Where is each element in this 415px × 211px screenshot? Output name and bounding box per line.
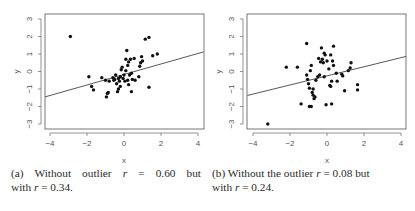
data-point: [331, 59, 334, 62]
caption-a: (a) Without outlier r = 0.60 but with r …: [11, 166, 201, 194]
data-point: [335, 72, 338, 75]
data-point: [156, 52, 159, 55]
x-tick-label: 4: [399, 139, 404, 148]
x-tick-label: 4: [196, 139, 201, 148]
data-point: [309, 69, 312, 72]
data-point: [322, 61, 325, 64]
data-point: [125, 49, 128, 52]
caption-b-line1: (b) Without the outlier r = 0.08 but: [212, 166, 412, 180]
data-point: [133, 79, 136, 82]
data-point: [140, 55, 143, 58]
data-point: [318, 73, 321, 76]
data-point: [130, 72, 133, 75]
x-axis: −4−2024x: [45, 133, 200, 165]
data-point: [126, 79, 129, 82]
x-axis: −4−2024x: [248, 133, 403, 165]
data-points: [69, 35, 159, 99]
data-point: [104, 79, 107, 82]
plot-frame: [247, 14, 406, 129]
x-axis-label: x: [122, 156, 126, 165]
data-point: [266, 122, 269, 125]
x-tick-label: 2: [362, 139, 367, 148]
data-point: [126, 64, 129, 67]
data-point: [349, 61, 352, 64]
data-point: [90, 85, 93, 88]
x-tick-label: 0: [122, 139, 127, 148]
data-point: [305, 73, 308, 76]
data-point: [341, 74, 344, 77]
x-tick-label: −4: [45, 139, 55, 148]
data-point: [114, 73, 117, 76]
y-tick-label: 0: [25, 69, 34, 74]
y-tick-label: 1: [227, 51, 236, 56]
data-point: [348, 66, 351, 69]
data-point: [310, 105, 313, 108]
y-tick-label: −1: [25, 84, 34, 94]
data-point: [124, 69, 127, 72]
data-point: [296, 65, 299, 68]
data-point: [285, 65, 288, 68]
data-point: [141, 59, 144, 62]
data-point: [307, 82, 310, 85]
data-point: [320, 46, 323, 49]
x-tick-label: 0: [325, 139, 330, 148]
y-tick-label: 3: [227, 16, 236, 21]
data-point: [87, 75, 90, 78]
data-point: [113, 78, 116, 81]
data-point: [122, 73, 125, 76]
data-point: [299, 102, 302, 105]
y-tick-label: −1: [227, 84, 236, 94]
y-tick-label: 1: [25, 51, 34, 56]
scatter-plot-b: −4−2024x−3−2−10123y: [207, 0, 415, 170]
data-point: [138, 65, 141, 68]
x-tick-label: −2: [285, 139, 295, 148]
data-point: [317, 57, 320, 60]
data-point: [329, 85, 332, 88]
data-point: [343, 89, 346, 92]
data-point: [356, 88, 359, 91]
y-axis: −3−2−10123y: [12, 16, 41, 128]
data-point: [310, 64, 313, 67]
y-tick-label: 2: [227, 34, 236, 39]
caption-a-line1: (a) Without outlier r = 0.60 but: [11, 166, 201, 180]
data-point: [330, 102, 333, 105]
data-point: [107, 91, 110, 94]
data-point: [92, 88, 95, 91]
scatter-plot-a: −4−2024x−3−2−10123y: [0, 0, 208, 170]
y-tick-label: −2: [25, 101, 34, 111]
data-point: [144, 37, 147, 40]
data-point: [335, 79, 338, 82]
data-point: [329, 53, 332, 56]
data-point: [69, 35, 72, 38]
data-point: [120, 65, 123, 68]
y-axis-label: y: [214, 70, 223, 74]
data-point: [314, 79, 317, 82]
y-tick-label: 3: [25, 16, 34, 21]
data-point: [306, 78, 309, 81]
data-points: [266, 42, 359, 126]
x-tick-label: −4: [248, 139, 258, 148]
y-tick-label: 2: [25, 34, 34, 39]
data-point: [321, 58, 324, 61]
data-point: [137, 75, 140, 78]
data-point: [325, 59, 328, 62]
x-tick-label: −2: [82, 139, 92, 148]
data-point: [115, 82, 118, 85]
data-point: [323, 53, 326, 56]
data-point: [124, 58, 127, 61]
y-tick-label: −3: [25, 119, 34, 129]
data-point: [332, 44, 335, 47]
y-tick-label: −2: [227, 101, 236, 111]
data-point: [132, 57, 135, 60]
caption-a-line2: with r = 0.34.: [11, 180, 201, 194]
data-point: [308, 86, 311, 89]
x-tick-label: 2: [159, 139, 164, 148]
data-point: [151, 54, 154, 57]
data-point: [127, 83, 130, 86]
y-axis: −3−2−10123y: [214, 16, 243, 128]
x-axis-label: x: [325, 156, 329, 165]
data-point: [311, 87, 314, 90]
data-point: [330, 79, 333, 82]
data-point: [119, 85, 122, 88]
data-point: [147, 36, 150, 39]
